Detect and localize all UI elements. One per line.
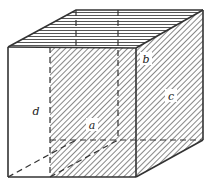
cuboid-svg: a b c d	[0, 0, 210, 188]
edge-top-front	[8, 47, 136, 48]
front-face-a	[50, 47, 136, 177]
label-a: a	[89, 119, 96, 132]
label-d: d	[32, 105, 39, 118]
label-b: b	[142, 53, 149, 66]
cuboid-figure: a b c d	[0, 0, 210, 188]
label-c: c	[168, 90, 174, 103]
